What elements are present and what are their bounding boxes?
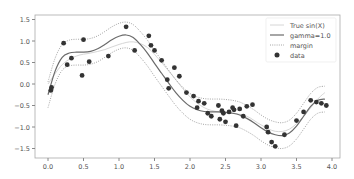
data-point bbox=[217, 117, 222, 122]
data-point bbox=[184, 90, 189, 95]
legend: True sin(X) gamma=1.0 margin data bbox=[266, 18, 336, 62]
data-point bbox=[81, 37, 86, 42]
y-tick-label: −1.0 bbox=[14, 124, 30, 132]
data-point bbox=[65, 62, 70, 67]
x-tick-label: 3.5 bbox=[291, 163, 301, 171]
legend-label-margin: margin bbox=[290, 42, 313, 50]
data-point bbox=[124, 24, 129, 29]
data-point bbox=[282, 132, 287, 137]
data-point bbox=[216, 103, 221, 108]
data-point bbox=[250, 102, 255, 107]
data-point bbox=[301, 110, 306, 115]
data-point bbox=[221, 111, 226, 116]
data-point bbox=[146, 33, 151, 38]
data-point bbox=[223, 119, 228, 124]
data-point bbox=[244, 104, 249, 109]
data-point bbox=[152, 48, 157, 53]
y-tick-label: −0.5 bbox=[14, 102, 30, 110]
x-tick-label: 1.0 bbox=[114, 163, 124, 171]
data-point bbox=[308, 98, 313, 103]
legend-data-marker bbox=[275, 53, 280, 58]
data-point bbox=[80, 73, 85, 78]
data-point bbox=[241, 114, 246, 119]
data-point bbox=[196, 99, 201, 104]
data-point bbox=[177, 74, 182, 79]
x-tick-label: 1.5 bbox=[149, 163, 159, 171]
data-point bbox=[132, 48, 137, 53]
data-point bbox=[269, 140, 274, 145]
data-point bbox=[294, 118, 299, 123]
y-tick-label: 1.5 bbox=[20, 16, 30, 24]
data-point bbox=[202, 101, 207, 106]
x-tick-label: 2.0 bbox=[185, 163, 195, 171]
data-point bbox=[324, 103, 329, 108]
data-point bbox=[237, 107, 242, 112]
chart: 1.5 1.0 0.5 0.0 −0.5 −1.0 −1.5 0.0 0.5 1… bbox=[0, 0, 354, 179]
x-tick-label: 0.5 bbox=[78, 163, 88, 171]
data-point bbox=[266, 130, 271, 135]
y-tick-label: 1.0 bbox=[20, 38, 30, 46]
x-axis: 0.0 0.5 1.0 1.5 2.0 2.5 3.0 3.5 4.0 bbox=[43, 158, 337, 171]
y-tick-label: 0.5 bbox=[20, 59, 30, 67]
data-point bbox=[87, 59, 92, 64]
data-point bbox=[232, 107, 237, 112]
data-point bbox=[191, 94, 196, 99]
data-point bbox=[165, 77, 170, 82]
x-tick-label: 4.0 bbox=[327, 163, 337, 171]
data-point bbox=[49, 85, 54, 90]
data-point bbox=[159, 58, 164, 63]
data-point bbox=[209, 114, 214, 119]
data-point bbox=[314, 100, 319, 105]
data-point bbox=[69, 56, 74, 61]
data-point bbox=[106, 54, 111, 59]
data-point bbox=[149, 43, 154, 48]
data-point bbox=[227, 110, 232, 115]
y-tick-label: −1.5 bbox=[14, 145, 30, 153]
x-tick-label: 0.0 bbox=[43, 163, 53, 171]
data-point bbox=[234, 123, 239, 128]
legend-label-true-sin: True sin(X) bbox=[289, 22, 325, 30]
data-point bbox=[172, 65, 177, 70]
x-tick-label: 3.0 bbox=[256, 163, 266, 171]
data-point bbox=[166, 86, 171, 91]
x-tick-label: 2.5 bbox=[220, 163, 230, 171]
data-point bbox=[195, 105, 200, 110]
data-point bbox=[264, 125, 269, 130]
data-point bbox=[61, 41, 66, 46]
y-axis: 1.5 1.0 0.5 0.0 −0.5 −1.0 −1.5 bbox=[14, 16, 35, 153]
data-point bbox=[319, 101, 324, 106]
legend-label-gamma: gamma=1.0 bbox=[290, 32, 331, 40]
y-tick-label: 0.0 bbox=[20, 81, 30, 89]
data-point bbox=[273, 144, 278, 149]
legend-label-data: data bbox=[290, 52, 305, 60]
